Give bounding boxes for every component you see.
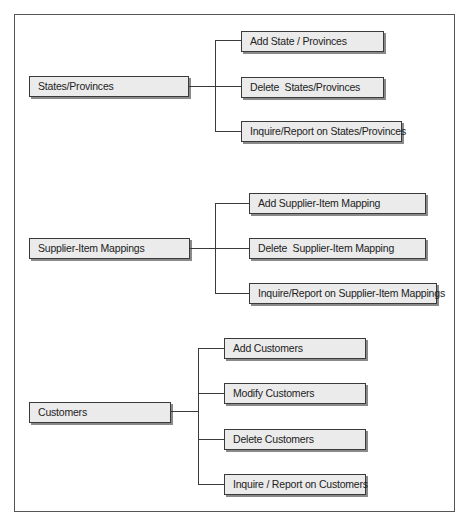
node-add-customers: Add Customers xyxy=(224,338,366,359)
node-inquire-report-supplier-item-mappings: Inquire/Report on Supplier-Item Mappings xyxy=(249,283,437,304)
connector xyxy=(198,393,224,394)
node-supplier-item-mappings: Supplier-Item Mappings xyxy=(29,238,190,259)
connector xyxy=(198,348,199,485)
connector xyxy=(215,248,249,249)
connector xyxy=(171,411,198,412)
node-inquire-report-states-provinces: Inquire/Report on States/Provinces xyxy=(241,121,402,142)
node-states-provinces: States/Provinces xyxy=(29,76,189,97)
node-delete-supplier-item-mapping: Delete Supplier-Item Mapping xyxy=(249,238,426,259)
node-delete-customers: Delete Customers xyxy=(224,429,366,450)
connector xyxy=(198,439,224,440)
node-inquire-report-customers: Inquire / Report on Customers xyxy=(224,474,366,495)
node-customers: Customers xyxy=(29,402,171,423)
connector xyxy=(198,348,224,349)
node-delete-states-provinces: Delete States/Provinces xyxy=(241,77,384,98)
connector xyxy=(198,484,224,485)
connector xyxy=(215,86,241,87)
connector xyxy=(190,248,215,249)
connector xyxy=(215,293,249,294)
node-add-supplier-item-mapping: Add Supplier-Item Mapping xyxy=(249,193,426,214)
connector xyxy=(189,86,215,87)
connector xyxy=(215,40,241,41)
node-add-state-provinces: Add State / Provinces xyxy=(241,31,384,52)
connector xyxy=(215,203,249,204)
node-modify-customers: Modify Customers xyxy=(224,383,366,404)
connector xyxy=(215,131,241,132)
